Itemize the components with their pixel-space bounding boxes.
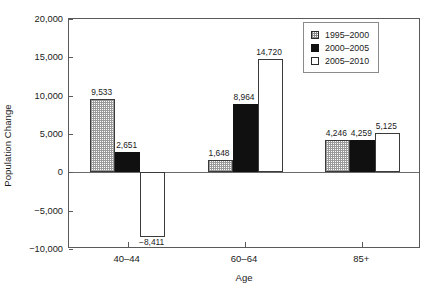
legend-item-2005-2010: 2005–2010 bbox=[311, 54, 369, 67]
bar-value-label: −8,411 bbox=[117, 237, 187, 247]
y-tick-mark bbox=[69, 172, 73, 173]
x-tick-mark bbox=[362, 242, 363, 247]
x-tick-mark bbox=[245, 242, 246, 247]
bar bbox=[325, 140, 350, 173]
legend-label-1995-2000: 1995–2000 bbox=[325, 30, 369, 40]
legend-swatch-icon-2000-2005 bbox=[311, 44, 319, 52]
x-tick-label: 85+ bbox=[301, 253, 421, 264]
bar-value-label: 8,964 bbox=[209, 92, 279, 102]
legend-label-2005-2010: 2005–2010 bbox=[325, 56, 369, 66]
x-tick-label: 60–64 bbox=[184, 253, 304, 264]
zero-baseline bbox=[69, 172, 419, 173]
bar-value-label: 14,720 bbox=[234, 47, 304, 57]
bar-value-label: 9,533 bbox=[67, 87, 137, 97]
y-tick-mark bbox=[69, 249, 73, 250]
bar bbox=[350, 140, 375, 173]
legend-swatch-icon-1995-2000 bbox=[311, 31, 319, 39]
bar-value-label: 1,648 bbox=[184, 148, 254, 158]
y-tick-mark bbox=[69, 57, 73, 58]
bar bbox=[208, 160, 233, 173]
legend-item-1995-2000: 1995–2000 bbox=[311, 28, 369, 41]
y-axis-title: Population Change bbox=[0, 0, 14, 291]
y-tick-mark bbox=[69, 19, 73, 20]
bar bbox=[375, 133, 400, 172]
y-tick-mark bbox=[69, 211, 73, 212]
bar bbox=[115, 152, 140, 172]
bar-value-label: 5,125 bbox=[351, 121, 421, 131]
legend-swatch-icon-2005-2010 bbox=[311, 57, 319, 65]
bar bbox=[258, 59, 283, 172]
population-change-bar-chart: Population Change Age 20,00015,00010,000… bbox=[0, 0, 439, 291]
bar bbox=[90, 99, 115, 172]
legend-label-2000-2005: 2000–2005 bbox=[325, 43, 369, 53]
bar-value-label: 2,651 bbox=[92, 140, 162, 150]
bar bbox=[233, 104, 258, 173]
bar bbox=[140, 172, 165, 236]
y-tick-mark bbox=[69, 134, 73, 135]
legend-item-2000-2005: 2000–2005 bbox=[311, 41, 369, 54]
x-tick-label: 40–44 bbox=[67, 253, 187, 264]
x-axis-title: Age bbox=[68, 272, 420, 283]
legend: 1995–2000 2000–2005 2005–2010 bbox=[303, 22, 379, 73]
